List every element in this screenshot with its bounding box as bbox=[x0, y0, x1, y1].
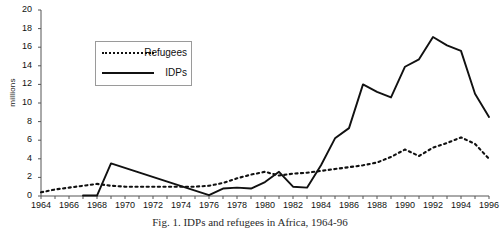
figure-caption: Fig. 1. IDPs and refugees in Africa, 196… bbox=[0, 216, 500, 228]
legend-label-idps: IDPs bbox=[165, 64, 187, 82]
legend-label-refugees: Refugees bbox=[144, 44, 187, 62]
legend-swatch-solid-line bbox=[102, 72, 154, 77]
series-line-refugees bbox=[41, 137, 489, 192]
legend-item-idps: IDPs bbox=[96, 64, 191, 82]
chart-legend: Refugees IDPs bbox=[95, 41, 192, 86]
plot-area bbox=[0, 0, 500, 229]
legend-item-refugees: Refugees bbox=[96, 44, 191, 62]
chart-container: millions 02468101214161820 1964196619681… bbox=[0, 0, 500, 229]
